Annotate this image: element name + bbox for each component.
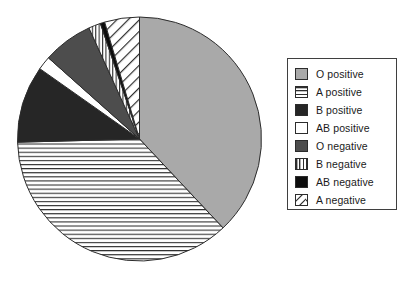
legend-label-ab-negative: AB negative (316, 176, 374, 188)
legend-swatch-o-negative (295, 140, 308, 152)
legend-swatch-a-positive (295, 86, 308, 98)
legend-item-a-positive[interactable]: A positive (295, 83, 396, 101)
legend-item-o-positive[interactable]: O positive (295, 65, 396, 83)
legend-label-a-negative: A negative (316, 194, 366, 206)
legend-label-o-negative: O negative (316, 140, 368, 152)
legend-item-o-negative[interactable]: O negative (295, 137, 396, 155)
legend-item-a-negative[interactable]: A negative (295, 191, 396, 209)
legend-label-b-negative: B negative (316, 158, 367, 170)
legend-item-ab-negative[interactable]: AB negative (295, 173, 396, 191)
legend-item-ab-positive[interactable]: AB positive (295, 119, 396, 137)
legend-label-o-positive: O positive (316, 68, 364, 80)
legend-label-ab-positive: AB positive (316, 122, 370, 134)
legend-label-b-positive: B positive (316, 104, 363, 116)
legend-item-b-positive[interactable]: B positive (295, 101, 396, 119)
legend-item-b-negative[interactable]: B negative (295, 155, 396, 173)
legend-swatch-ab-negative (295, 176, 308, 188)
chart-legend: O positive A positive B positive AB posi… (287, 58, 397, 210)
legend-swatch-o-positive (295, 68, 308, 80)
legend-label-a-positive: A positive (316, 86, 362, 98)
legend-swatch-b-positive (295, 104, 308, 116)
chart-canvas: O positive A positive B positive AB posi… (0, 0, 409, 282)
legend-swatch-b-negative (295, 158, 308, 170)
legend-swatch-a-negative (295, 194, 308, 206)
pie-slice-group (17, 17, 261, 261)
legend-swatch-ab-positive (295, 122, 308, 134)
